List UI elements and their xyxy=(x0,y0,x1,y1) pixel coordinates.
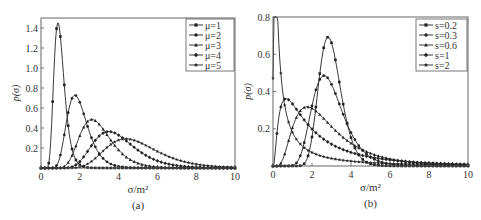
x-tick-label: 0 xyxy=(39,171,44,182)
x-tick-label: 4 xyxy=(116,171,121,182)
x-tick-label: 8 xyxy=(427,169,432,180)
y-tick-label: 0.8 xyxy=(258,12,271,23)
y-axis-label: p(σ) xyxy=(242,83,254,101)
y-tick-label: 0.2 xyxy=(258,123,271,134)
x-axis-label: σ/m² xyxy=(360,181,382,193)
y-tick-label: 1.4 xyxy=(26,23,39,34)
y-tick-label: 0.2 xyxy=(26,143,39,154)
panel-caption: (a) xyxy=(132,199,145,212)
y-axis-label: p(σ) xyxy=(10,84,22,102)
y-tick-label: 0.8 xyxy=(26,83,39,94)
y-tick-label: 0.6 xyxy=(258,49,271,60)
y-tick-label: 0.6 xyxy=(26,103,39,114)
x-tick-label: 10 xyxy=(230,171,240,182)
series-5 xyxy=(39,137,237,170)
panel-caption: (b) xyxy=(364,197,377,210)
chart-panel-b: 02468100.20.40.60.8σ/m²p(σ)(b)s=0.2s=0.3… xyxy=(242,12,473,211)
y-tick-label: 1.0 xyxy=(26,63,39,74)
x-tick-label: 2 xyxy=(310,169,315,180)
x-tick-label: 10 xyxy=(463,169,473,180)
x-tick-label: 4 xyxy=(349,169,354,180)
figure: 02468100.20.40.60.81.01.21.4σ/m²p(σ)(a)μ… xyxy=(0,0,481,220)
legend-label: μ=5 xyxy=(205,60,221,71)
x-tick-label: 2 xyxy=(77,171,82,182)
legend: μ=1μ=2μ=3μ=4μ=5 xyxy=(186,19,234,71)
x-tick-label: 6 xyxy=(155,171,160,182)
y-tick-label: 1.2 xyxy=(26,43,39,54)
y-tick-label: 0.4 xyxy=(26,123,39,134)
legend-label: s=2 xyxy=(435,60,450,71)
legend: s=0.2s=0.3s=0.6s=1s=2 xyxy=(416,19,467,71)
x-tick-label: 8 xyxy=(194,171,199,182)
chart-panel-a: 02468100.20.40.60.81.01.21.4σ/m²p(σ)(a)μ… xyxy=(10,18,240,212)
series-s1 xyxy=(271,97,469,168)
y-tick-label: 0.4 xyxy=(258,86,271,97)
x-tick-label: 6 xyxy=(388,169,393,180)
x-axis-label: σ/m² xyxy=(128,183,150,195)
x-tick-label: 0 xyxy=(271,169,276,180)
